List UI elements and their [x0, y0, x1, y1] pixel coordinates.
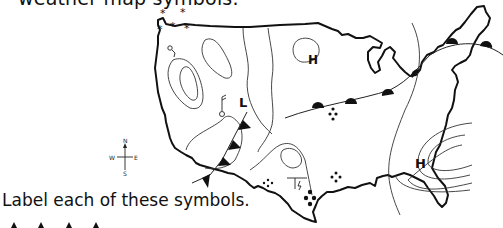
compass-rose: N W E S: [109, 137, 138, 177]
exercise-symbol-row: [10, 222, 100, 228]
isobar-west-inner: [180, 67, 198, 100]
cold-front-triangle-icon: [10, 222, 18, 228]
isobar-vertical-1: [243, 28, 272, 134]
high-pressure-label-north: H: [308, 53, 318, 67]
svg-text:*: *: [170, 20, 176, 33]
warm-front-semicircles: [312, 38, 492, 108]
svg-text:*: *: [180, 6, 186, 19]
cold-front-triangle-icon: [92, 222, 100, 228]
wind-barb-station: [220, 95, 227, 117]
svg-text:*: *: [160, 7, 166, 20]
compass-north: N: [123, 137, 128, 144]
svg-text:*: *: [157, 23, 163, 36]
thunderstorm-symbol: [287, 178, 307, 190]
isobar-east-arc: [389, 23, 420, 215]
compass-south: S: [123, 170, 127, 177]
isobar-vertical-2: [258, 28, 273, 152]
instruction-text: Label each of these symbols.: [2, 190, 250, 210]
low-pressure-label: L: [239, 95, 247, 110]
snow-asterisks: * * * * *: [157, 6, 190, 36]
isobar-se-2: [428, 135, 472, 171]
compass-west: W: [109, 154, 115, 161]
cold-front-triangle-icon: [37, 222, 45, 228]
svg-text:*: *: [184, 22, 190, 35]
cold-front-triangles: [202, 120, 251, 188]
isobar-texas-inner: [281, 148, 302, 168]
isobar-west-outer: [168, 59, 203, 109]
cold-front-triangle-icon: [65, 222, 73, 228]
compass-east: E: [134, 154, 138, 161]
isobar-north: [202, 39, 232, 78]
high-pressure-label-southeast: H: [415, 156, 426, 171]
station-symbol-northwest: [168, 46, 175, 57]
